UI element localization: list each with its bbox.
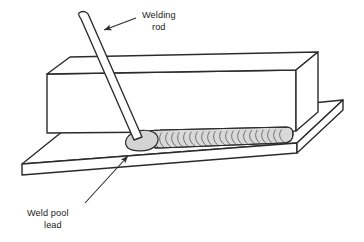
upper-block-front-face: [47, 70, 296, 133]
upper-block: [47, 52, 318, 133]
welding-rod-label: Welding rod: [142, 10, 178, 32]
welding-rod-leader-line: [104, 18, 136, 30]
upper-block-top-face: [47, 52, 318, 74]
welding-diagram-svg: Welding rod Weld pool lead: [0, 0, 364, 242]
welding-diagram-figure: Welding rod Weld pool lead: [0, 0, 364, 242]
welding-rod-label-line2: rod: [152, 22, 166, 32]
welding-rod-leader: [104, 18, 136, 30]
weld-pool-label-line1: Weld pool: [27, 208, 69, 218]
welding-rod-label-line1: Welding: [142, 10, 176, 20]
weld-pool-label: Weld pool lead: [27, 208, 71, 230]
weld-pool-label-line2: lead: [44, 220, 62, 230]
